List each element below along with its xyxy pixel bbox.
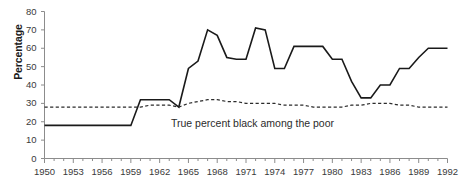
series-annotation-true-percent-black: True percent black among the poor xyxy=(171,117,334,129)
plot-area xyxy=(0,0,462,193)
data-series xyxy=(45,28,448,125)
series-line-2 xyxy=(45,100,448,107)
series-line-1 xyxy=(45,28,448,125)
axes xyxy=(41,12,448,164)
line-chart: Percentage 80706050403020100 19501953195… xyxy=(0,0,462,193)
